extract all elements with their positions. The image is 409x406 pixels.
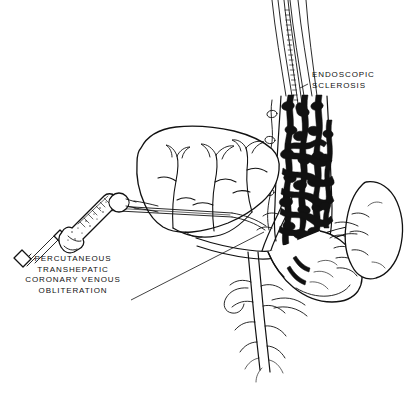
label-endoscopic-line1: ENDOSCOPIC	[312, 70, 375, 81]
label-endoscopic-line2: SCLEROSIS	[312, 81, 375, 92]
label-percutaneous-line3: CORONARY VENOUS	[10, 275, 136, 286]
leader-line-endoscopic	[300, 84, 308, 88]
label-endoscopic-sclerosis: ENDOSCOPIC SCLEROSIS	[312, 70, 375, 91]
liver	[137, 126, 279, 237]
label-percutaneous-line1: PERCUTANEOUS	[10, 254, 136, 265]
illustration-canvas: .ln { fill:none; stroke:#111; stroke-lin…	[0, 0, 409, 406]
endoscope	[272, 0, 317, 114]
medical-illustration-figure: .ln { fill:none; stroke:#111; stroke-lin…	[0, 0, 409, 406]
label-percutaneous-line4: OBLITERATION	[10, 286, 136, 297]
label-percutaneous-line2: TRANSHEPATIC	[10, 265, 136, 276]
leader-line-percutaneous	[131, 232, 264, 300]
label-percutaneous-transhepatic-coronary-venous-obliteration: PERCUTANEOUS TRANSHEPATIC CORONARY VENOU…	[10, 254, 136, 296]
